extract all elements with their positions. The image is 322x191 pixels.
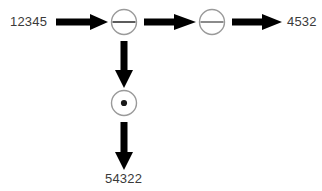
arrow-dot-to-output — [115, 122, 133, 170]
arrow-minus1-to-minus2 — [144, 14, 196, 30]
circle-minus-icon — [200, 10, 225, 35]
flow-diagram: 12345 4532 54322 — [0, 0, 322, 191]
circle-dot-icon — [112, 91, 137, 116]
arrow-minus2-to-output — [232, 14, 282, 30]
output-right-label: 4532 — [287, 15, 317, 28]
output-bottom-label: 54322 — [105, 172, 142, 185]
circle-minus-icon — [112, 10, 137, 35]
input-label: 12345 — [10, 15, 47, 28]
diagram-canvas — [0, 0, 322, 191]
arrow-minus1-to-dot — [115, 41, 133, 88]
arrow-input-to-minus1 — [56, 14, 108, 30]
